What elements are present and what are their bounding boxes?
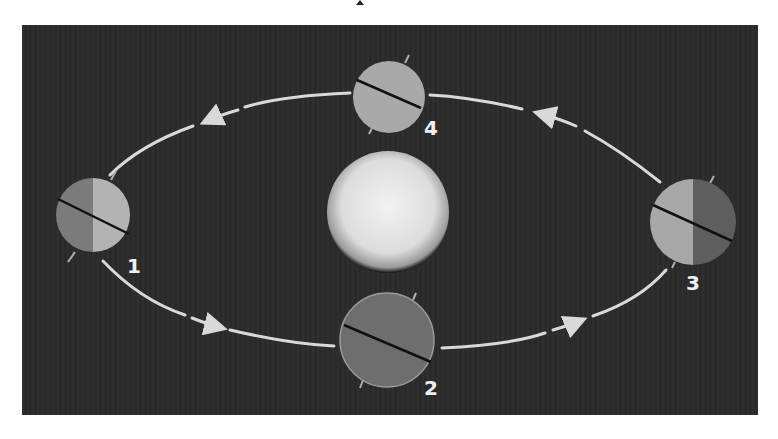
earth-position-3 <box>650 176 736 268</box>
position-label-3: 3 <box>686 271 700 295</box>
position-label-1: 1 <box>127 254 141 278</box>
sun <box>327 151 449 273</box>
earth-position-1 <box>56 171 130 262</box>
position-label-4: 4 <box>424 116 438 140</box>
position-label-2: 2 <box>424 376 438 400</box>
orbit-diagram: 1 2 3 4 <box>0 0 778 439</box>
earth-position-4 <box>353 55 425 134</box>
earth-position-2 <box>340 293 434 388</box>
